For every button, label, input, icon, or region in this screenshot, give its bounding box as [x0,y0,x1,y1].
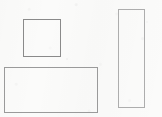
square-shape [23,19,61,57]
scan-speck [146,21,148,23]
figure-canvas [0,0,162,117]
scan-speck [66,58,68,60]
wide-rectangle-shape [4,67,98,113]
tall-rectangle-shape [118,9,145,108]
